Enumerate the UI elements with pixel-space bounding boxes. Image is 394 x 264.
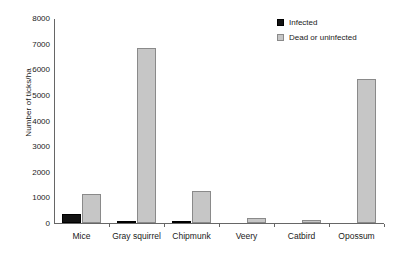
x-label-opossum: Opossum [329, 231, 384, 241]
y-axis-tick-label: 8000 [14, 15, 50, 23]
bar-group-opossum [329, 19, 384, 223]
y-axis-tick-label: 2000 [14, 169, 50, 177]
bar-group-mice [54, 19, 109, 223]
plot-area [54, 19, 384, 224]
legend-swatch-icon [277, 19, 284, 26]
bar-group-catbird [274, 19, 329, 223]
x-axis-category-labels: MiceGray squirrelChipmunkVeeryCatbirdOpo… [54, 231, 384, 247]
y-axis-tick-labels: 010002000300040005000600070008000 [14, 15, 50, 228]
chart-legend: InfectedDead or uninfected [277, 18, 392, 48]
x-axis-tick-mark [219, 224, 220, 227]
bar-chipmunk-infected[interactable] [172, 221, 191, 223]
bar-group-veery [219, 19, 274, 223]
bar-gray-squirrel-dead-or-uninfected[interactable] [137, 48, 156, 223]
y-axis-tick-label: 6000 [14, 66, 50, 74]
x-label-chipmunk: Chipmunk [164, 231, 219, 241]
legend-swatch-icon [277, 34, 284, 41]
x-axis-tick-mark [164, 224, 165, 227]
x-label-catbird: Catbird [274, 231, 329, 241]
bar-gray-squirrel-infected[interactable] [117, 221, 136, 223]
y-axis-tick-label: 3000 [14, 143, 50, 151]
bar-chart: Number of ticks/ha 010002000300040005000… [0, 0, 394, 264]
x-axis-tick-mark [109, 224, 110, 227]
legend-label: Infected [289, 18, 317, 27]
bar-mice-dead-or-uninfected[interactable] [82, 194, 101, 223]
legend-label: Dead or uninfected [289, 33, 357, 42]
y-axis-tick-label: 1000 [14, 194, 50, 202]
bar-opossum-dead-or-uninfected[interactable] [357, 79, 376, 223]
bar-mice-infected[interactable] [62, 214, 81, 223]
x-label-gray-squirrel: Gray squirrel [109, 231, 164, 241]
x-axis-tick-mark [329, 224, 330, 227]
y-axis-tick-label: 0 [14, 220, 50, 228]
x-axis-tick-mark [274, 224, 275, 227]
legend-item-infected[interactable]: Infected [277, 18, 392, 27]
y-axis-tick-label: 4000 [14, 118, 50, 126]
bar-veery-dead-or-uninfected[interactable] [247, 218, 266, 223]
x-label-veery: Veery [219, 231, 274, 241]
legend-item-dead-or-uninfected[interactable]: Dead or uninfected [277, 33, 392, 42]
bar-catbird-dead-or-uninfected[interactable] [302, 220, 321, 223]
bar-group-gray-squirrel [109, 19, 164, 223]
x-axis-tick-mark [384, 224, 385, 227]
x-label-mice: Mice [54, 231, 109, 241]
y-axis-tick-label: 7000 [14, 41, 50, 49]
bar-chipmunk-dead-or-uninfected[interactable] [192, 191, 211, 223]
y-axis-tick-label: 5000 [14, 92, 50, 100]
bar-group-chipmunk [164, 19, 219, 223]
